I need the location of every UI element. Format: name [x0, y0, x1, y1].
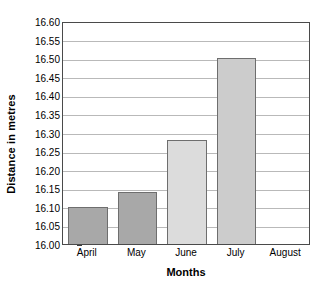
bar-july — [217, 58, 257, 244]
x-tick-label-may: May — [112, 247, 162, 258]
x-tick-label-april: April — [62, 247, 112, 258]
plot-area — [62, 22, 310, 245]
y-tick-label: 16.40 — [20, 91, 60, 102]
y-tick-label: 16.15 — [20, 184, 60, 195]
bar-series — [63, 23, 309, 244]
y-axis-title: Distance in metres — [0, 0, 22, 288]
y-tick-label: 16.05 — [20, 221, 60, 232]
y-tick-label: 16.25 — [20, 147, 60, 158]
y-tick-label: 16.20 — [20, 165, 60, 176]
y-tick-label: 16.60 — [20, 17, 60, 28]
x-tick-label-august: August — [260, 247, 310, 258]
y-tick-label: 16.00 — [20, 240, 60, 251]
y-tick-label: 16.55 — [20, 35, 60, 46]
bar-may — [118, 192, 158, 244]
y-tick-label: 16.45 — [20, 72, 60, 83]
x-axis-tick-labels: AprilMayJuneJulyAugust — [62, 247, 310, 263]
x-tick-label-july: July — [211, 247, 261, 258]
y-tick-label: 16.30 — [20, 128, 60, 139]
bar-june — [167, 140, 207, 244]
x-axis-title: Months — [62, 266, 310, 278]
bar-chart-figure: Distance in metres 16.0016.0516.1016.151… — [0, 0, 324, 288]
y-axis-tick-labels: 16.0016.0516.1016.1516.2016.2516.3016.35… — [20, 22, 60, 245]
bar-april — [68, 207, 108, 244]
y-tick-label: 16.50 — [20, 54, 60, 65]
y-tick-label: 16.10 — [20, 202, 60, 213]
y-tick-label: 16.35 — [20, 109, 60, 120]
x-tick-label-june: June — [161, 247, 211, 258]
